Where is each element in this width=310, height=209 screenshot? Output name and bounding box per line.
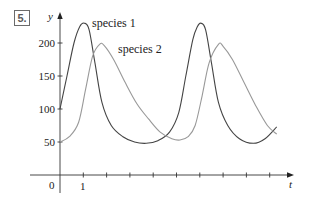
- species-2-curve: [60, 43, 277, 142]
- x-axis-arrow-icon: [287, 172, 294, 177]
- species-2-label: species 2: [118, 42, 162, 56]
- origin-label: 0: [49, 179, 55, 191]
- y-tick-label: 150: [39, 70, 56, 82]
- species-1-label: species 1: [92, 16, 136, 30]
- y-tick-label: 200: [39, 37, 56, 49]
- y-tick-label: 100: [39, 103, 56, 115]
- population-chart: 50100150200 t y 0 1 species 1 species 2: [0, 0, 310, 209]
- y-tick-label: 50: [44, 136, 56, 148]
- series-group: [60, 23, 277, 143]
- y-axis-arrow-icon: [57, 12, 62, 19]
- y-axis-label: y: [47, 10, 53, 22]
- x-tick-label-1: 1: [80, 180, 86, 192]
- x-axis-label: t: [289, 178, 293, 190]
- y-ticks: 50100150200: [39, 37, 63, 148]
- axes: 50100150200 t y 0 1: [30, 10, 294, 193]
